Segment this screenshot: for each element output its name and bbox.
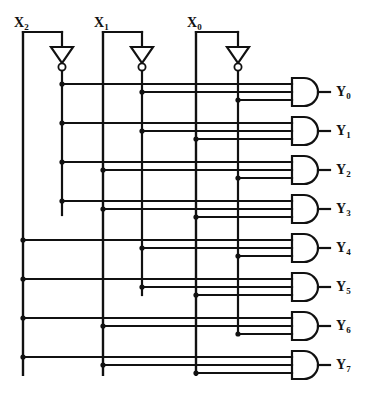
gate-y4-junction-0 (20, 237, 25, 242)
output-label-Y5: Y5 (336, 280, 351, 294)
gate-y0-junction-1 (139, 89, 144, 94)
output-label-Y3-base: Y (336, 201, 346, 216)
gate-y6-junction-1 (100, 323, 105, 328)
output-label-Y7-base: Y (336, 357, 346, 372)
gate-y4-body[interactable] (292, 234, 318, 262)
output-label-Y2-subscript: 2 (346, 169, 351, 179)
gate-y0-body[interactable] (292, 78, 318, 106)
gate-y3-junction-1 (100, 206, 105, 211)
gate-y1-junction-2 (193, 136, 198, 141)
gate-y6-body[interactable] (292, 312, 318, 340)
gate-y2-junction-0 (59, 159, 64, 164)
gate-y5-junction-2 (193, 292, 198, 297)
output-label-Y4-subscript: 4 (346, 247, 351, 257)
gate-y4-junction-1 (139, 245, 144, 250)
output-label-Y7-subscript: 7 (346, 364, 351, 374)
gate-y7-junction-2 (193, 370, 198, 375)
output-label-Y0-subscript: 0 (346, 91, 351, 101)
output-label-Y4-base: Y (336, 240, 346, 255)
inverter-x0-triangle (227, 47, 249, 63)
gate-y5-junction-1 (139, 284, 144, 289)
gate-y7-body[interactable] (292, 351, 318, 379)
gate-y2-junction-2 (235, 175, 240, 180)
input-label-X0: X0 (187, 16, 202, 30)
output-label-Y3: Y3 (336, 202, 351, 216)
output-label-Y4: Y4 (336, 241, 351, 255)
output-label-Y1-base: Y (336, 123, 346, 138)
input-label-X0-subscript: 0 (197, 22, 202, 32)
input-label-X2-subscript: 2 (24, 22, 29, 32)
inverter-x2-triangle (51, 47, 73, 63)
inverter-x1-triangle (131, 47, 153, 63)
circuit-wiring (0, 0, 372, 393)
output-label-Y2-base: Y (336, 162, 346, 177)
gate-y2-junction-1 (100, 167, 105, 172)
output-label-Y7: Y7 (336, 358, 351, 372)
gate-y7-junction-1 (100, 362, 105, 367)
gate-y3-body[interactable] (292, 195, 318, 223)
output-label-Y0-base: Y (336, 84, 346, 99)
output-label-Y3-subscript: 3 (346, 208, 351, 218)
gate-y1-body[interactable] (292, 117, 318, 145)
gate-y3-junction-2 (193, 214, 198, 219)
gate-y1-junction-1 (139, 128, 144, 133)
output-label-Y0: Y0 (336, 85, 351, 99)
input-label-X1: X1 (94, 16, 109, 30)
gate-y7-junction-0 (20, 354, 25, 359)
input-label-X1-subscript: 1 (104, 22, 109, 32)
output-label-Y6-subscript: 6 (346, 325, 351, 335)
output-label-Y1: Y1 (336, 124, 351, 138)
input-label-X1-base: X (94, 15, 104, 30)
output-label-Y1-subscript: 1 (346, 130, 351, 140)
output-label-Y6-base: Y (336, 318, 346, 333)
output-label-Y6: Y6 (336, 319, 351, 333)
input-label-X2-base: X (14, 15, 24, 30)
output-label-Y5-subscript: 5 (346, 286, 351, 296)
inverter-x0-bubble (234, 63, 241, 70)
output-label-Y5-base: Y (336, 279, 346, 294)
gate-y5-junction-0 (20, 276, 25, 281)
input-label-X0-base: X (187, 15, 197, 30)
gate-y2-body[interactable] (292, 156, 318, 184)
gate-y6-junction-2 (235, 331, 240, 336)
gate-y3-junction-0 (59, 198, 64, 203)
gate-y1-junction-0 (59, 120, 64, 125)
input-label-X2: X2 (14, 16, 29, 30)
gate-y4-junction-2 (235, 253, 240, 258)
gate-y0-junction-0 (59, 81, 64, 86)
output-label-Y2: Y2 (336, 163, 351, 177)
gate-y6-junction-0 (20, 315, 25, 320)
gate-y0-junction-2 (235, 97, 240, 102)
inverter-x2-bubble (58, 63, 65, 70)
inverter-x1-bubble (138, 63, 145, 70)
logic-diagram-canvas: X2X1X0Y0Y1Y2Y3Y4Y5Y6Y7 (0, 0, 372, 393)
gate-y5-body[interactable] (292, 273, 318, 301)
